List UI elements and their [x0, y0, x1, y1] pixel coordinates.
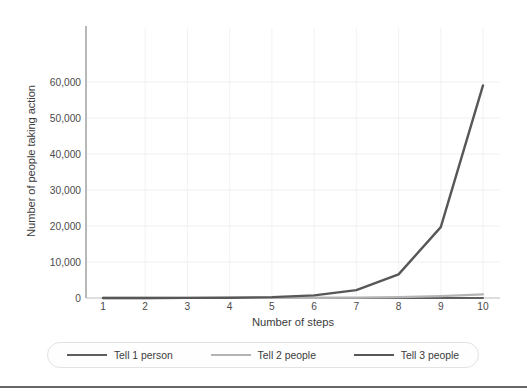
legend-label: Tell 1 person — [114, 350, 173, 361]
x-tick-label: 4 — [215, 302, 245, 312]
plot-canvas — [0, 0, 527, 340]
x-tick-label: 10 — [468, 302, 498, 312]
x-tick-label: 3 — [172, 302, 202, 312]
x-tick-label: 6 — [299, 302, 329, 312]
legend-swatch-icon — [67, 354, 107, 356]
legend-item-tell-2-people[interactable]: Tell 2 people — [211, 350, 316, 361]
legend-swatch-icon — [354, 354, 394, 356]
legend-label: Tell 3 people — [401, 350, 459, 361]
x-tick-label: 7 — [341, 302, 371, 312]
x-tick-label: 9 — [426, 302, 456, 312]
legend-item-tell-1-person[interactable]: Tell 1 person — [67, 350, 173, 361]
vertical-gridlines — [145, 28, 483, 298]
x-tick-label: 5 — [257, 302, 287, 312]
legend-item-tell-3-people[interactable]: Tell 3 people — [354, 350, 459, 361]
footer-divider — [0, 386, 527, 388]
x-tick-label: 2 — [130, 302, 160, 312]
series-line-tell-3-people — [103, 85, 483, 298]
x-tick-label: 1 — [88, 302, 118, 312]
x-tick-label: 8 — [384, 302, 414, 312]
chart-legend: Tell 1 person Tell 2 people Tell 3 peopl… — [47, 342, 479, 368]
legend-swatch-icon — [211, 354, 251, 356]
horizontal-gridlines — [86, 82, 500, 262]
legend-label: Tell 2 people — [258, 350, 316, 361]
x-axis-title: Number of steps — [86, 316, 500, 328]
chart-figure: Number of people taking action 0 10,000 … — [0, 0, 527, 391]
plot-container: Number of people taking action 0 10,000 … — [0, 0, 527, 340]
